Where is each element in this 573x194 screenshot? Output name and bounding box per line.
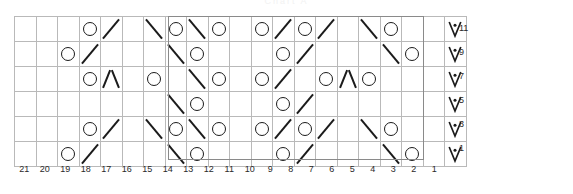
chart-cell[interactable] bbox=[187, 67, 209, 92]
chart-cell[interactable] bbox=[165, 92, 187, 117]
chart-cell[interactable] bbox=[380, 67, 402, 92]
chart-cell[interactable] bbox=[251, 67, 273, 92]
chart-cell[interactable] bbox=[165, 117, 187, 142]
chart-cell[interactable] bbox=[273, 92, 295, 117]
chart-cell[interactable] bbox=[36, 92, 58, 117]
chart-cell[interactable] bbox=[337, 92, 359, 117]
chart-cell[interactable] bbox=[423, 42, 445, 67]
chart-cell[interactable] bbox=[187, 92, 209, 117]
chart-cell[interactable] bbox=[122, 67, 144, 92]
chart-cell[interactable] bbox=[58, 92, 80, 117]
chart-cell[interactable] bbox=[144, 17, 166, 42]
chart-cell[interactable] bbox=[58, 67, 80, 92]
chart-cell[interactable] bbox=[208, 117, 230, 142]
chart-cell[interactable] bbox=[273, 117, 295, 142]
chart-cell[interactable] bbox=[316, 117, 338, 142]
chart-cell[interactable] bbox=[294, 117, 316, 142]
chart-cell[interactable] bbox=[337, 117, 359, 142]
chart-cell[interactable] bbox=[36, 67, 58, 92]
chart-cell[interactable] bbox=[230, 117, 252, 142]
chart-cell[interactable] bbox=[208, 92, 230, 117]
chart-cell[interactable] bbox=[380, 92, 402, 117]
chart-cell[interactable] bbox=[101, 92, 123, 117]
chart-cell[interactable] bbox=[337, 17, 359, 42]
chart-cell[interactable] bbox=[15, 17, 37, 42]
chart-cell[interactable] bbox=[251, 92, 273, 117]
chart-cell[interactable] bbox=[337, 67, 359, 92]
chart-cell[interactable] bbox=[187, 42, 209, 67]
chart-cell[interactable] bbox=[58, 117, 80, 142]
chart-cell[interactable] bbox=[423, 92, 445, 117]
chart-cell[interactable] bbox=[402, 67, 424, 92]
chart-cell[interactable] bbox=[251, 17, 273, 42]
chart-cell[interactable] bbox=[294, 42, 316, 67]
chart-cell[interactable] bbox=[294, 17, 316, 42]
chart-cell[interactable] bbox=[402, 92, 424, 117]
chart-cell[interactable] bbox=[230, 67, 252, 92]
chart-cell[interactable] bbox=[294, 67, 316, 92]
chart-cell[interactable] bbox=[79, 67, 101, 92]
chart-cell[interactable] bbox=[230, 17, 252, 42]
chart-cell[interactable] bbox=[36, 117, 58, 142]
chart-cell[interactable] bbox=[144, 67, 166, 92]
chart-cell[interactable] bbox=[251, 42, 273, 67]
chart-cell[interactable] bbox=[79, 92, 101, 117]
chart-cell[interactable] bbox=[15, 67, 37, 92]
chart-cell[interactable] bbox=[15, 117, 37, 142]
chart-cell[interactable] bbox=[273, 17, 295, 42]
chart-cell[interactable] bbox=[380, 42, 402, 67]
chart-cell[interactable] bbox=[359, 92, 381, 117]
chart-cell[interactable] bbox=[165, 17, 187, 42]
chart-cell[interactable] bbox=[423, 117, 445, 142]
chart-cell[interactable] bbox=[316, 67, 338, 92]
chart-cell[interactable] bbox=[187, 117, 209, 142]
chart-cell[interactable] bbox=[251, 117, 273, 142]
chart-cell[interactable] bbox=[122, 17, 144, 42]
chart-cell[interactable] bbox=[273, 42, 295, 67]
chart-cell[interactable] bbox=[230, 92, 252, 117]
chart-cell[interactable] bbox=[402, 117, 424, 142]
chart-cell[interactable] bbox=[208, 42, 230, 67]
chart-cell[interactable] bbox=[273, 67, 295, 92]
chart-cell[interactable] bbox=[337, 42, 359, 67]
chart-cell[interactable] bbox=[316, 92, 338, 117]
chart-cell[interactable] bbox=[208, 17, 230, 42]
chart-cell[interactable] bbox=[187, 17, 209, 42]
chart-cell[interactable] bbox=[316, 42, 338, 67]
chart-cell[interactable] bbox=[144, 92, 166, 117]
chart-cell[interactable] bbox=[359, 42, 381, 67]
chart-cell[interactable] bbox=[380, 117, 402, 142]
chart-cell[interactable] bbox=[423, 67, 445, 92]
chart-cell[interactable] bbox=[79, 42, 101, 67]
chart-cell[interactable] bbox=[101, 67, 123, 92]
chart-cell[interactable] bbox=[122, 42, 144, 67]
chart-cell[interactable] bbox=[122, 92, 144, 117]
chart-cell[interactable] bbox=[58, 17, 80, 42]
chart-cell[interactable] bbox=[36, 42, 58, 67]
chart-cell[interactable] bbox=[423, 17, 445, 42]
chart-cell[interactable] bbox=[101, 17, 123, 42]
chart-cell[interactable] bbox=[101, 42, 123, 67]
chart-cell[interactable] bbox=[122, 117, 144, 142]
chart-cell[interactable] bbox=[359, 117, 381, 142]
chart-cell[interactable] bbox=[294, 92, 316, 117]
chart-cell[interactable] bbox=[165, 67, 187, 92]
chart-cell[interactable] bbox=[402, 17, 424, 42]
chart-cell[interactable] bbox=[79, 117, 101, 142]
chart-cell[interactable] bbox=[36, 17, 58, 42]
chart-cell[interactable] bbox=[15, 92, 37, 117]
chart-cell[interactable] bbox=[402, 42, 424, 67]
chart-cell[interactable] bbox=[79, 17, 101, 42]
chart-cell[interactable] bbox=[230, 42, 252, 67]
chart-cell[interactable] bbox=[359, 17, 381, 42]
chart-cell[interactable] bbox=[15, 42, 37, 67]
chart-cell[interactable] bbox=[316, 17, 338, 42]
chart-cell[interactable] bbox=[359, 67, 381, 92]
chart-cell[interactable] bbox=[208, 67, 230, 92]
chart-cell[interactable] bbox=[58, 42, 80, 67]
chart-cell[interactable] bbox=[101, 117, 123, 142]
chart-cell[interactable] bbox=[165, 42, 187, 67]
chart-cell[interactable] bbox=[144, 117, 166, 142]
chart-cell[interactable] bbox=[144, 42, 166, 67]
chart-cell[interactable] bbox=[380, 17, 402, 42]
